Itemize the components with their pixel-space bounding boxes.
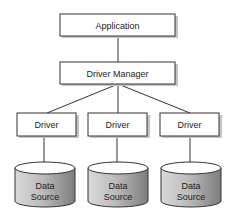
- application-label: Application: [95, 21, 139, 31]
- data-source-label-line2: Source: [104, 192, 133, 202]
- data-source-label-line1: Data: [181, 181, 200, 191]
- driver-node-2: Driver: [88, 113, 150, 138]
- connectors: [44, 36, 190, 165]
- data-source-label-line2: Source: [31, 192, 60, 202]
- data-source-label-line1: Data: [108, 181, 127, 191]
- driver-label: Driver: [106, 120, 130, 130]
- application-node: Application: [60, 14, 178, 38]
- driver-label: Driver: [35, 120, 59, 130]
- driver-node-3: Driver: [160, 113, 222, 138]
- driver-manager-node: Driver Manager: [60, 62, 178, 86]
- data-source-label-line2: Source: [177, 192, 206, 202]
- data-source-1: Data Source: [15, 162, 75, 207]
- diagram-canvas: Application Driver Manager Driver Driver…: [0, 0, 236, 216]
- edge-manager-driver-1: [47, 84, 118, 113]
- driver-node-1: Driver: [17, 113, 79, 138]
- data-source-3: Data Source: [161, 162, 221, 207]
- data-source-2: Data Source: [88, 162, 148, 207]
- driver-manager-label: Driver Manager: [86, 69, 148, 79]
- driver-label: Driver: [178, 120, 202, 130]
- edge-manager-driver-3: [118, 84, 190, 113]
- data-source-label-line1: Data: [35, 181, 54, 191]
